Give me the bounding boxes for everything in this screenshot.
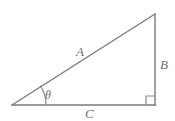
angle-label-theta: θ xyxy=(45,89,51,101)
side-label-b: B xyxy=(160,58,168,71)
side-label-c: C xyxy=(85,107,94,120)
right-angle-square-icon xyxy=(146,96,155,105)
side-label-a: A xyxy=(76,45,84,58)
hypotenuse-line-a xyxy=(12,14,155,105)
right-triangle-figure: A B C θ xyxy=(0,0,175,121)
triangle-graphic xyxy=(0,0,175,121)
